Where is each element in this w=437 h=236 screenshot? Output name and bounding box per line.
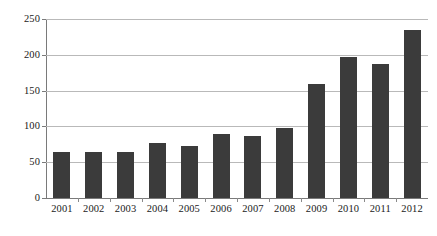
x-tick-label-2003: 2003 [110, 203, 142, 215]
gridline-150 [46, 91, 428, 92]
bar-2002 [85, 152, 102, 198]
y-tick-label-200: 200 [2, 50, 40, 60]
x-tick-label-2009: 2009 [301, 203, 333, 215]
plot-area [46, 19, 428, 198]
x-tick-label-2005: 2005 [173, 203, 205, 215]
x-tick-mark-2007 [237, 198, 238, 202]
x-tick-label-2001: 2001 [46, 203, 78, 215]
y-tick-mark-150 [42, 91, 46, 92]
y-tick-mark-250 [42, 19, 46, 20]
gridline-200 [46, 55, 428, 56]
y-tick-mark-100 [42, 126, 46, 127]
bar-2007 [244, 136, 261, 198]
gridline-100 [46, 126, 428, 127]
bar-2010 [340, 57, 357, 198]
x-tick-label-2008: 2008 [269, 203, 301, 215]
x-axis-tick-labels: 2001200220032004200520062007200820092010… [46, 203, 428, 223]
y-tick-label-250: 250 [2, 14, 40, 24]
x-tick-mark-2003 [110, 198, 111, 202]
bar-2009 [308, 84, 325, 198]
bar-chart: 050100150200250 200120022003200420052006… [0, 0, 437, 236]
x-tick-mark-2004 [142, 198, 143, 202]
bar-2001 [53, 152, 70, 198]
gridline-250 [46, 19, 428, 20]
x-tick-mark-2011 [364, 198, 365, 202]
x-tick-label-2002: 2002 [78, 203, 110, 215]
y-tick-label-150: 150 [2, 86, 40, 96]
bar-2012 [404, 30, 421, 198]
bar-2008 [276, 128, 293, 198]
bar-2004 [149, 143, 166, 198]
bar-2011 [372, 64, 389, 198]
x-tick-label-2007: 2007 [237, 203, 269, 215]
x-tick-label-2006: 2006 [205, 203, 237, 215]
bar-2003 [117, 152, 134, 198]
x-tick-mark-2006 [205, 198, 206, 202]
y-tick-mark-50 [42, 162, 46, 163]
x-tick-mark-2005 [173, 198, 174, 202]
x-tick-mark-2008 [269, 198, 270, 202]
y-axis-tick-labels: 050100150200250 [0, 0, 40, 236]
x-tick-label-2011: 2011 [364, 203, 396, 215]
y-tick-label-0: 0 [2, 193, 40, 203]
gridline-50 [46, 162, 428, 163]
x-tick-label-2010: 2010 [333, 203, 365, 215]
y-tick-mark-200 [42, 55, 46, 56]
bar-2006 [213, 134, 230, 198]
x-tick-mark-2012 [396, 198, 397, 202]
x-tick-mark-2010 [333, 198, 334, 202]
x-tick-mark-2002 [78, 198, 79, 202]
bar-2005 [181, 146, 198, 198]
x-tick-label-2004: 2004 [142, 203, 174, 215]
y-tick-label-50: 50 [2, 157, 40, 167]
x-tick-label-2012: 2012 [396, 203, 428, 215]
x-tick-mark-2009 [301, 198, 302, 202]
y-tick-label-100: 100 [2, 121, 40, 131]
y-tick-mark-0 [42, 198, 46, 199]
